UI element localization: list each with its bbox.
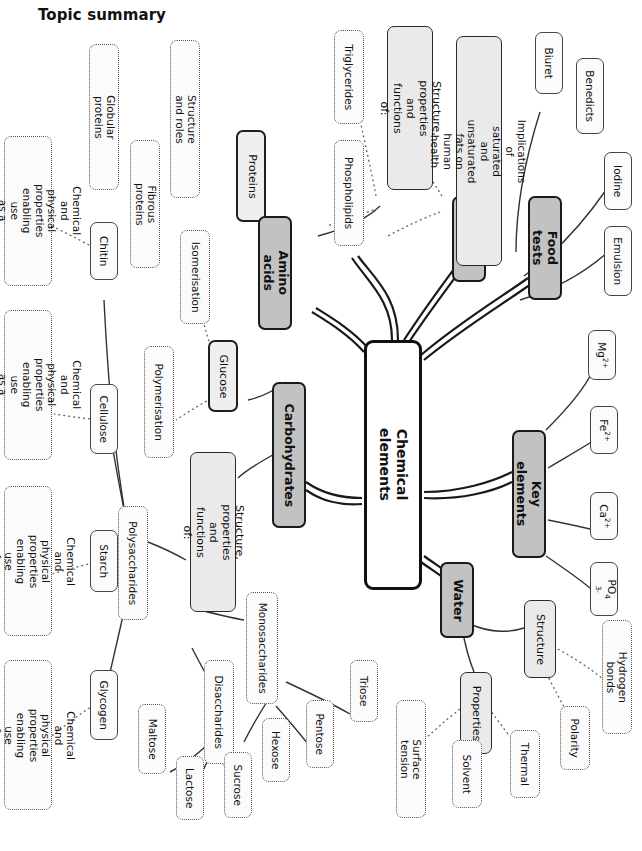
node-amino-acids-label: Amino acids <box>260 251 290 295</box>
link-key-fe <box>548 440 594 468</box>
node-hexose[interactable]: Hexose <box>262 718 290 782</box>
link-key-ca <box>548 520 594 530</box>
node-starch[interactable]: Starch <box>90 530 118 592</box>
node-triglycerides[interactable]: Triglycerides <box>334 30 364 124</box>
node-emulsion[interactable]: Emulsion <box>604 226 632 296</box>
node-proteins[interactable]: Proteins <box>236 130 266 222</box>
node-food-tests-label: Food tests <box>530 230 560 265</box>
node-glycogen-label: Glycogen <box>98 680 110 729</box>
link-center-foodtests <box>421 278 528 355</box>
note-structural-compound-cellulose-label: Chemical and physical properties enablin… <box>0 357 84 413</box>
node-iodine-label: Iodine <box>612 165 624 197</box>
node-proteins-label: Proteins <box>245 154 258 198</box>
link-lipidstruct-phos <box>388 212 440 236</box>
node-biuret-label: Biuret <box>543 47 555 78</box>
node-food-tests[interactable]: Food tests <box>528 196 562 300</box>
note-structural-compound-chitin[interactable]: Chemical and physical properties enablin… <box>4 136 52 286</box>
node-globular-proteins-label: Globular proteins <box>92 95 117 139</box>
note-structural-compound-cellulose[interactable]: Chemical and physical properties enablin… <box>4 310 52 460</box>
node-globular-proteins[interactable]: Globular proteins <box>89 44 119 190</box>
node-glycogen[interactable]: Glycogen <box>90 670 118 740</box>
node-polysaccharides[interactable]: Polysaccharides <box>118 506 148 620</box>
node-biuret[interactable]: Biuret <box>535 32 563 94</box>
node-key-elements[interactable]: Key elements <box>512 430 546 558</box>
node-chitin-label: Chitin <box>98 236 110 267</box>
node-fibrous-proteins-label: Fibrous proteins <box>133 183 158 226</box>
node-iron-ion[interactable]: Fe2+ <box>590 406 618 454</box>
node-chitin[interactable]: Chitin <box>90 222 118 280</box>
node-lactose[interactable]: Lactose <box>176 756 204 820</box>
node-benedicts-label: Benedicts <box>584 70 596 122</box>
note-storage-glycogen[interactable]: Chemical and physical properties enablin… <box>4 660 52 810</box>
node-pentose[interactable]: Pentose <box>306 700 334 768</box>
node-key-elements-label: Key elements <box>514 461 544 526</box>
node-carb-structure-properties-label: Structure, properties and functions of: <box>181 504 246 560</box>
node-hexose-label: Hexose <box>270 731 282 769</box>
node-sucrose[interactable]: Sucrose <box>224 752 252 818</box>
node-phosphate-ion-label: PO4 3- <box>590 578 618 600</box>
node-polarity[interactable]: Polarity <box>560 706 590 770</box>
node-cellulose[interactable]: Cellulose <box>90 384 118 454</box>
node-lactose-label: Lactose <box>184 768 196 809</box>
node-cellulose-label: Cellulose <box>98 395 110 443</box>
node-hydrogen-bonds-label: Hydrogen bonds <box>605 651 630 702</box>
node-water-label: Water <box>450 579 465 621</box>
node-magnesium-ion-label: Mg2+ <box>596 342 609 368</box>
note-storage-starch[interactable]: Chemical and physical properties enablin… <box>4 486 52 636</box>
node-maltose[interactable]: Maltose <box>138 704 166 774</box>
node-isomerisation[interactable]: Isomerisation <box>180 230 210 324</box>
node-thermal-label: Thermal <box>519 742 531 785</box>
node-fibrous-proteins[interactable]: Fibrous proteins <box>130 140 160 268</box>
node-triose-label: Triose <box>358 676 370 706</box>
node-lipid-structure-properties[interactable]: Structure, properties and functions of: <box>387 26 433 190</box>
node-thermal[interactable]: Thermal <box>510 730 540 798</box>
node-phosphate-ion[interactable]: PO4 3- <box>590 562 618 616</box>
link-center-proteins-path-2 <box>312 312 364 352</box>
node-solvent[interactable]: Solvent <box>452 740 482 808</box>
link-center-foodtests-2 <box>424 284 531 360</box>
node-carbohydrates-label: Carbohydrates <box>282 403 297 507</box>
node-triose[interactable]: Triose <box>350 660 378 722</box>
node-water[interactable]: Water <box>440 562 474 638</box>
node-monosaccharides[interactable]: Monosaccharides <box>246 592 278 704</box>
node-carb-structure-properties[interactable]: Structure, properties and functions of: <box>190 452 236 612</box>
link-key-po4 <box>546 556 592 590</box>
node-water-structure[interactable]: Structure <box>524 600 556 678</box>
node-disaccharides[interactable]: Disaccharides <box>204 660 234 764</box>
link-center-keyelements-2 <box>424 482 512 498</box>
note-storage-glycogen-label: Chemical and physical properties enablin… <box>0 708 78 762</box>
node-glucose[interactable]: Glucose <box>208 340 238 412</box>
center-node-label: Chemical elements <box>376 429 409 502</box>
node-monosaccharides-label: Monosaccharides <box>256 603 268 694</box>
center-node-chemical-elements[interactable]: Chemical elements <box>364 340 422 590</box>
node-polymerisation[interactable]: Polymerisation <box>144 346 174 458</box>
node-benedicts[interactable]: Benedicts <box>576 58 604 134</box>
node-surface-tension[interactable]: Surface tension <box>396 700 426 818</box>
node-emulsion-label: Emulsion <box>612 237 624 285</box>
node-calcium-ion[interactable]: Ca2+ <box>590 492 618 540</box>
node-pentose-label: Pentose <box>314 713 326 755</box>
node-polymerisation-label: Polymerisation <box>153 363 165 440</box>
node-water-properties-label: Properties <box>470 685 483 741</box>
node-isomerisation-label: Isomerisation <box>189 242 201 313</box>
node-amino-acids[interactable]: Amino acids <box>258 216 292 330</box>
node-calcium-ion-label: Ca2+ <box>598 504 611 528</box>
node-structure-and-roles-label: Structure and roles <box>173 95 198 144</box>
link-center-proteins-path <box>316 308 368 348</box>
mindmap-canvas: Topic summary <box>0 0 642 851</box>
node-triglycerides-label: Triglycerides <box>343 44 355 110</box>
node-hydrogen-bonds[interactable]: Hydrogen bonds <box>602 620 632 734</box>
node-implications-saturated-fats-label: Implications of saturated and unsaturate… <box>430 119 529 183</box>
note-storage-starch-label: Chemical and physical properties enablin… <box>0 534 78 588</box>
node-starch-label: Starch <box>98 544 110 578</box>
node-structure-and-roles[interactable]: Structure and roles <box>170 40 200 198</box>
node-carbohydrates[interactable]: Carbohydrates <box>272 382 306 528</box>
node-iodine[interactable]: Iodine <box>604 152 632 210</box>
node-phospholipids[interactable]: Phospholipids <box>334 140 364 246</box>
link-center-keyelements <box>424 472 512 492</box>
node-solvent-label: Solvent <box>461 754 473 793</box>
node-implications-saturated-fats[interactable]: Implications of saturated and unsaturate… <box>456 36 502 266</box>
node-phospholipids-label: Phospholipids <box>343 157 355 229</box>
node-magnesium-ion[interactable]: Mg2+ <box>588 330 616 380</box>
node-disaccharides-label: Disaccharides <box>213 675 225 748</box>
